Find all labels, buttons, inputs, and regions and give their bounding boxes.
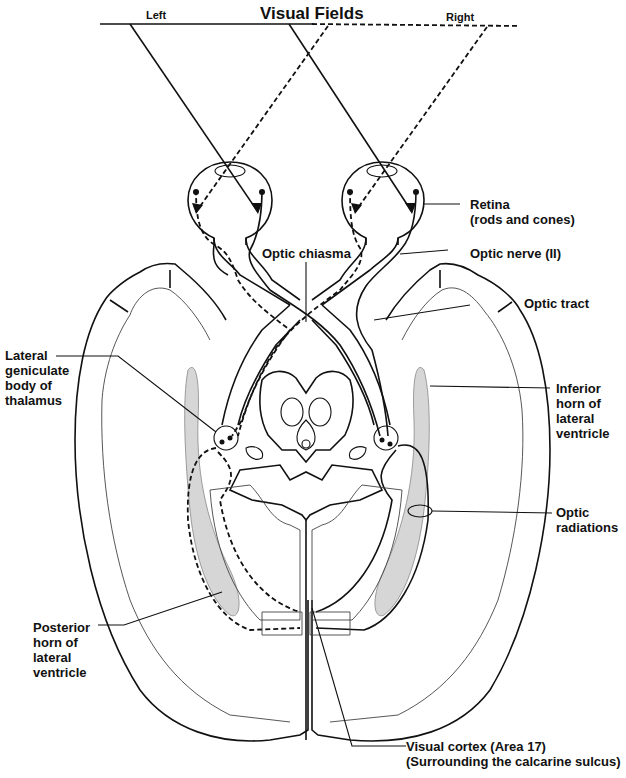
midbrain bbox=[214, 371, 398, 520]
lateral-geniculate-label: Lateral geniculate body of thalamus bbox=[5, 348, 69, 408]
right-lgn bbox=[374, 426, 398, 450]
visual-pathway-diagram: Left Visual Fields Right Retina (rods an… bbox=[0, 0, 626, 778]
diagram-title: Visual Fields bbox=[260, 4, 364, 24]
retina-label: Retina (rods and cones) bbox=[470, 197, 575, 227]
right-field-label: Right bbox=[446, 10, 474, 25]
optic-radiations-label: Optic radiations bbox=[556, 505, 618, 535]
visual-field-lines bbox=[100, 24, 520, 214]
label-leaders bbox=[56, 204, 552, 746]
posterior-horn-label: Posterior horn of lateral ventricle bbox=[33, 620, 90, 680]
diagram-artwork bbox=[0, 0, 626, 778]
optic-nerve-label: Optic nerve (II) bbox=[470, 246, 561, 261]
left-field-label: Left bbox=[146, 8, 166, 23]
inferior-horn-label: Inferior horn of lateral ventricle bbox=[556, 381, 609, 441]
occipital-region bbox=[210, 485, 402, 740]
optic-chiasma-label: Optic chiasma bbox=[262, 246, 351, 261]
optic-tract-label: Optic tract bbox=[524, 296, 589, 311]
visual-cortex-label: Visual cortex (Area 17) (Surrounding the… bbox=[406, 739, 621, 769]
lateral-ventricles bbox=[185, 367, 430, 615]
left-lgn bbox=[214, 426, 238, 450]
